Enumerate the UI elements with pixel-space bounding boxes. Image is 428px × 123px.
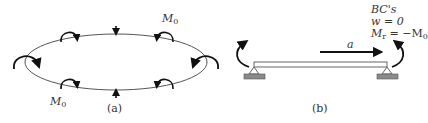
moment-label-bottom: M0 <box>50 96 66 111</box>
moment-label-top: M0 <box>162 13 178 28</box>
bc-moment: Mr = −M0 <box>371 28 428 43</box>
beam-strip <box>254 62 387 67</box>
right-end-moment-icon <box>392 43 403 67</box>
moment-arc-bottom-left-icon <box>61 79 77 89</box>
caption-a: (a) <box>107 103 122 115</box>
left-end-moment-icon <box>237 43 249 67</box>
left-support-icon <box>244 67 265 79</box>
plate-ellipse <box>25 34 207 90</box>
right-support-icon <box>377 67 398 79</box>
caption-b: (b) <box>312 103 328 115</box>
radius-label: a <box>347 39 354 51</box>
